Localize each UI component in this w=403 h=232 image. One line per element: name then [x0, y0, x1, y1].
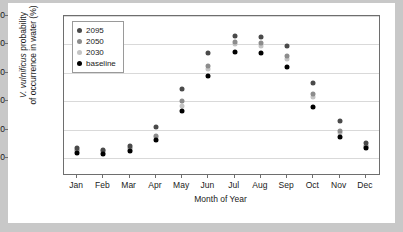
- data-point: [180, 86, 185, 91]
- legend-marker-2030: [77, 50, 82, 55]
- x-tick-mark: [365, 174, 366, 178]
- y-tick-mark: [5, 43, 8, 44]
- x-tick-label: Jan: [69, 180, 83, 190]
- legend-label-2050: 2050: [86, 36, 104, 47]
- data-point: [127, 149, 132, 154]
- gridline: [64, 73, 379, 74]
- x-tick-mark: [234, 174, 235, 178]
- gridline: [64, 101, 379, 102]
- data-point: [363, 140, 368, 145]
- legend-marker-2050: [77, 39, 82, 44]
- gridline: [64, 130, 379, 131]
- figure-panel: 2095 2050 2030 baseline 020406080100 V. …: [8, 3, 395, 223]
- legend-item: 2095: [77, 25, 116, 36]
- data-point: [311, 92, 316, 97]
- data-point: [258, 51, 263, 56]
- legend-marker-2095: [77, 28, 82, 33]
- x-tick-mark: [286, 174, 287, 178]
- x-tick-mark: [339, 174, 340, 178]
- data-point: [285, 65, 290, 70]
- y-tick-mark: [5, 129, 8, 130]
- x-tick-mark: [76, 174, 77, 178]
- legend-item: 2030: [77, 47, 116, 58]
- x-tick-label: Mar: [121, 180, 136, 190]
- data-point: [232, 49, 237, 54]
- legend-marker-baseline: [77, 61, 82, 66]
- gridline: [64, 158, 379, 159]
- x-tick-label: Sep: [279, 180, 294, 190]
- data-point: [127, 143, 132, 148]
- data-point: [101, 152, 106, 157]
- data-point: [180, 99, 185, 104]
- data-point: [363, 146, 368, 151]
- data-point: [232, 33, 237, 38]
- y-tick-mark: [5, 157, 8, 158]
- x-tick-label: Jun: [201, 180, 215, 190]
- data-point: [285, 43, 290, 48]
- x-tick-mark: [155, 174, 156, 178]
- data-point: [232, 39, 237, 44]
- x-tick-mark: [312, 174, 313, 178]
- y-axis-label-rest: probability: [18, 12, 28, 53]
- x-tick-mark: [207, 174, 208, 178]
- data-point: [206, 73, 211, 78]
- y-tick-mark: [5, 100, 8, 101]
- chart-legend: 2095 2050 2030 baseline: [72, 21, 124, 73]
- legend-label-2030: 2030: [86, 47, 104, 58]
- x-tick-label: Aug: [252, 180, 267, 190]
- data-point: [206, 51, 211, 56]
- x-tick-mark: [129, 174, 130, 178]
- data-point: [337, 119, 342, 124]
- x-tick-label: Apr: [148, 180, 161, 190]
- x-tick-label: Nov: [331, 180, 346, 190]
- x-tick-label: May: [173, 180, 189, 190]
- data-point: [337, 134, 342, 139]
- x-tick-label: Oct: [306, 180, 319, 190]
- x-tick-label: Feb: [95, 180, 110, 190]
- x-tick-label: Jul: [228, 180, 239, 190]
- plot-area: 2095 2050 2030 baseline: [63, 15, 380, 175]
- y-axis-label-species: V. vulnificus: [18, 53, 28, 98]
- data-point: [75, 150, 80, 155]
- gridline: [64, 16, 379, 17]
- data-point: [337, 129, 342, 134]
- data-point: [258, 35, 263, 40]
- y-axis-label-line2: of occurrence in water (%): [28, 5, 38, 104]
- x-tick-label: Dec: [357, 180, 372, 190]
- x-tick-mark: [102, 174, 103, 178]
- data-point: [180, 103, 185, 108]
- y-tick-mark: [5, 72, 8, 73]
- data-point: [311, 105, 316, 110]
- data-point: [285, 53, 290, 58]
- legend-label-2095: 2095: [86, 25, 104, 36]
- y-tick-mark: [5, 15, 8, 16]
- data-point: [153, 125, 158, 130]
- data-point: [206, 63, 211, 68]
- data-point: [180, 109, 185, 114]
- legend-item: baseline: [77, 58, 116, 69]
- data-point: [311, 80, 316, 85]
- data-point: [258, 41, 263, 46]
- x-tick-mark: [260, 174, 261, 178]
- legend-item: 2050: [77, 36, 116, 47]
- legend-label-baseline: baseline: [86, 58, 116, 69]
- x-axis-label: Month of Year: [63, 194, 378, 204]
- y-axis-label: V. vulnificus probability of occurrence …: [18, 0, 38, 130]
- data-point: [153, 137, 158, 142]
- x-tick-mark: [181, 174, 182, 178]
